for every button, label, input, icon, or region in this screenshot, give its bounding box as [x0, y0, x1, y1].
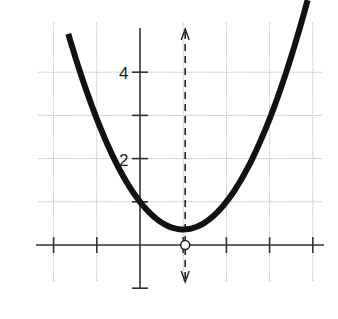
grid-lines	[38, 22, 322, 282]
plot-area: 4 2	[0, 0, 338, 319]
y-tick-label-2: 2	[119, 151, 128, 170]
y-tick-label-4: 4	[119, 64, 128, 83]
open-point-marker	[181, 241, 190, 250]
parabola-chart: 4 2	[0, 0, 338, 319]
parabola-curve	[68, 0, 307, 229]
